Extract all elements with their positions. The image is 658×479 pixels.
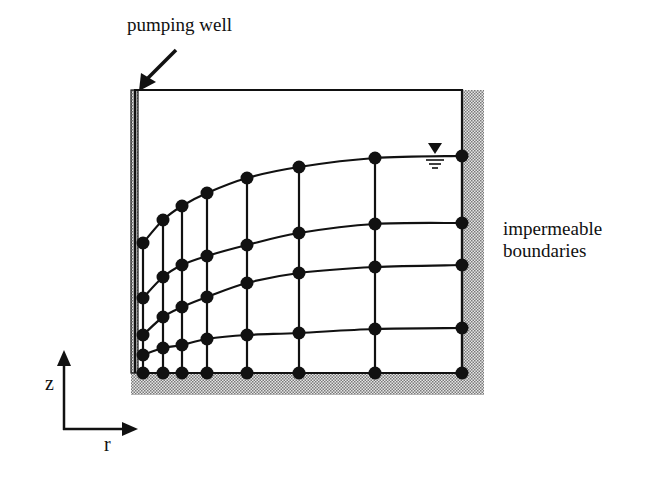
mesh-lines xyxy=(143,156,462,373)
mesh-node xyxy=(241,172,254,185)
mesh-node xyxy=(293,367,306,380)
mesh-node xyxy=(369,218,382,231)
mesh-node xyxy=(157,271,170,284)
mesh-node xyxy=(157,342,170,355)
mesh-node xyxy=(369,152,382,165)
mesh-node xyxy=(293,161,306,174)
mesh-node xyxy=(369,367,382,380)
mesh-node xyxy=(201,250,214,263)
mesh-node xyxy=(293,227,306,240)
mesh-node xyxy=(157,367,170,380)
mesh-node xyxy=(456,217,469,230)
mesh-node xyxy=(176,259,189,272)
right-boundary xyxy=(462,90,484,395)
mesh-node xyxy=(201,187,214,200)
mesh-node xyxy=(201,367,214,380)
pumping-well-label: pumping well xyxy=(127,14,232,36)
z-axis-label: z xyxy=(45,372,54,394)
mesh-node xyxy=(137,237,150,250)
mesh-node xyxy=(456,367,469,380)
mesh-node xyxy=(241,277,254,290)
mesh-node xyxy=(157,311,170,324)
mesh-node xyxy=(176,367,189,380)
mesh-nodes xyxy=(137,150,469,380)
mesh-node xyxy=(241,239,254,252)
mesh-node xyxy=(456,322,469,335)
pumping-well-arrow-icon xyxy=(139,50,176,91)
mesh-node xyxy=(176,339,189,352)
z-axis-arrowhead-icon xyxy=(57,350,71,366)
r-axis-arrowhead-icon xyxy=(122,422,138,436)
axes-icon xyxy=(57,350,138,436)
mesh-node xyxy=(201,333,214,346)
r-axis-label: r xyxy=(104,433,111,455)
mesh-node xyxy=(241,367,254,380)
mesh-node xyxy=(369,261,382,274)
mesh-node xyxy=(456,150,469,163)
mesh-node xyxy=(369,323,382,336)
mesh-node xyxy=(293,267,306,280)
mesh-node xyxy=(456,259,469,272)
mesh-node xyxy=(137,292,150,305)
mesh-node xyxy=(201,291,214,304)
mesh-node xyxy=(293,327,306,340)
mesh-node xyxy=(137,367,150,380)
mesh-node xyxy=(137,329,150,342)
mesh-node xyxy=(157,214,170,227)
mesh-node xyxy=(241,329,254,342)
impermeable-boundaries-line1: impermeable xyxy=(503,218,602,240)
mesh-node xyxy=(176,301,189,314)
mesh-node xyxy=(176,200,189,213)
mesh-node xyxy=(137,349,150,362)
impermeable-boundaries-label: impermeable boundaries xyxy=(503,218,602,262)
impermeable-boundaries-line2: boundaries xyxy=(503,240,602,262)
